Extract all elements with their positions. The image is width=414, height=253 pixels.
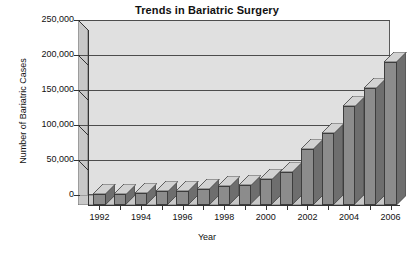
- bar: [239, 175, 251, 205]
- y-axis-ticks: 050,000100,000150,000200,000250,000: [18, 0, 74, 253]
- x-axis-tick-label: 1994: [124, 212, 158, 222]
- x-axis-tick-label: 1992: [82, 212, 116, 222]
- x-axis-tick-label: 2000: [249, 212, 283, 222]
- y-axis-tick-mark: [74, 160, 80, 161]
- y-axis-tick-label: 150,000: [22, 84, 74, 94]
- x-axis-tick-label: 2006: [374, 212, 408, 222]
- y-axis-tick-label: 50,000: [22, 154, 74, 164]
- bar-front-face: [384, 62, 396, 206]
- gridline: [78, 90, 390, 91]
- bar-front-face: [218, 186, 230, 205]
- bar: [322, 123, 334, 205]
- bar-front-face: [93, 194, 105, 205]
- bar-front-face: [301, 149, 313, 205]
- gridline: [78, 20, 390, 21]
- plot-area: 050,000100,000150,000200,000250,000 1992…: [0, 0, 414, 253]
- y-axis-tick-label: 100,000: [22, 119, 74, 129]
- x-axis-tick-label: 2002: [290, 212, 324, 222]
- bar-front-face: [114, 194, 126, 205]
- bar: [384, 52, 396, 206]
- bar-front-face: [176, 191, 188, 205]
- bar: [280, 162, 292, 205]
- bar: [260, 169, 272, 205]
- x-axis-tick-label: 1996: [166, 212, 200, 222]
- y-axis-tick-mark: [74, 90, 80, 91]
- bar: [114, 184, 126, 205]
- bar-front-face: [322, 133, 334, 205]
- y-axis-tick-label: 0: [22, 189, 74, 199]
- bar: [301, 139, 313, 205]
- y-axis-tick-label: 200,000: [22, 49, 74, 59]
- bar: [197, 179, 209, 205]
- x-axis-tick-label: 1998: [207, 212, 241, 222]
- y-axis-tick-label: 250,000: [22, 14, 74, 24]
- y-axis-tick-mark: [74, 20, 80, 21]
- gridline: [78, 55, 390, 56]
- x-axis-tick-label: 2004: [332, 212, 366, 222]
- bar-front-face: [135, 193, 147, 205]
- bar-front-face: [239, 185, 251, 205]
- bar: [343, 96, 355, 205]
- bar-front-face: [364, 88, 376, 205]
- plot-left-wall: [78, 20, 88, 205]
- y-axis-tick-mark: [74, 55, 80, 56]
- y-axis-tick-mark: [74, 125, 80, 126]
- bar: [156, 181, 168, 205]
- bar: [364, 78, 376, 205]
- x-axis-line: [88, 205, 400, 206]
- bar-front-face: [343, 106, 355, 205]
- bar-front-face: [197, 189, 209, 205]
- y-axis-tick-mark: [74, 195, 80, 196]
- bar: [93, 184, 105, 205]
- bar-front-face: [280, 172, 292, 205]
- bar: [176, 181, 188, 205]
- bar-front-face: [260, 179, 272, 205]
- y-axis-line: [88, 30, 89, 206]
- bar: [135, 183, 147, 205]
- bar: [218, 176, 230, 205]
- chart-figure: Trends in Bariatric Surgery Number of Ba…: [0, 0, 414, 253]
- bar-side-face: [396, 52, 406, 206]
- bar-front-face: [156, 191, 168, 205]
